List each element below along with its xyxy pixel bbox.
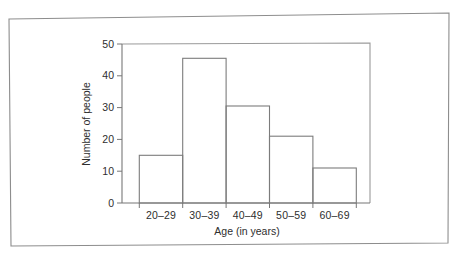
x-tick-label: 20–29: [146, 209, 176, 221]
bars-group: [139, 58, 356, 203]
bar: [226, 106, 269, 203]
y-tick-label: 0: [108, 197, 114, 209]
y-tick-label: 40: [102, 69, 114, 81]
x-axis-ticks: [139, 203, 356, 208]
y-tick-label: 30: [102, 101, 114, 113]
plot-frame: [122, 43, 370, 203]
y-tick-label: 50: [102, 38, 114, 50]
bar: [139, 155, 182, 203]
y-axis-tick-labels: 0 10 20 30 40 50: [102, 38, 114, 209]
y-axis-ticks: [117, 44, 122, 203]
bar: [270, 136, 313, 203]
x-tick-label: 40–49: [233, 209, 263, 221]
histogram-figure: 0 10 20 30 40 50 Number of people 20–29 …: [0, 0, 456, 260]
x-axis-title: Age (in years): [214, 225, 279, 237]
bar: [183, 58, 226, 203]
x-axis-tick-labels: 20–29 30–39 40–49 50–59 60–69: [146, 209, 350, 221]
y-axis-title: Number of people: [80, 82, 92, 166]
y-tick-label: 10: [102, 165, 114, 177]
x-tick-label: 50–59: [276, 209, 306, 221]
y-tick-label: 20: [102, 133, 114, 145]
x-tick-label: 60–69: [319, 209, 349, 221]
bar: [313, 168, 356, 203]
figure-border: [9, 13, 449, 246]
x-tick-label: 30–39: [189, 209, 219, 221]
